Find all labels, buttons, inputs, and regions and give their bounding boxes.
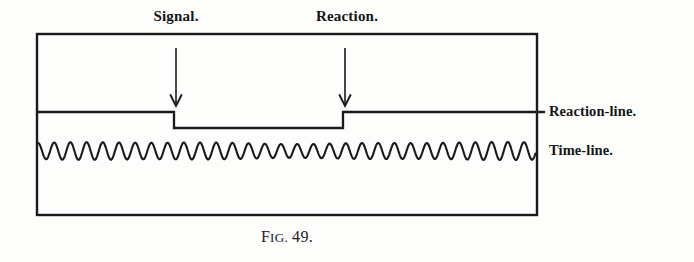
time-line-trace <box>38 142 535 160</box>
figure-caption: FIG. 49. <box>0 228 574 246</box>
frame-border <box>37 34 537 215</box>
caption-number: 49. <box>292 228 313 245</box>
reaction-line-label: Reaction-line. <box>549 103 636 120</box>
signal-arrow-icon <box>171 48 182 106</box>
caption-prefix-first: F <box>261 228 270 245</box>
reaction-line-trace <box>37 112 545 128</box>
kymograph-drawing <box>0 0 694 262</box>
time-line-label: Time-line. <box>549 142 613 159</box>
figure-container: Signal. Reaction. Reaction-line. Time-li… <box>0 0 694 262</box>
reaction-arrow-icon <box>340 48 351 106</box>
caption-prefix-rest: IG. <box>270 230 288 245</box>
